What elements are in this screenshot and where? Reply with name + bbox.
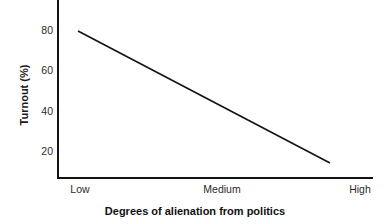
y-axis-line: [57, 0, 59, 179]
y-tick-label-60: 60: [20, 64, 53, 76]
turnout-trend-line: [78, 31, 330, 163]
x-tick-label-high: High: [349, 183, 371, 195]
chart-figure: Turnout (%) 80 60 40 20 Low Medium High …: [0, 0, 390, 224]
x-tick-label-low: Low: [70, 183, 89, 195]
y-tick-label-20: 20: [20, 145, 53, 157]
x-axis-tick-labels: Low Medium High: [0, 183, 390, 197]
y-tick-label-80: 80: [20, 24, 53, 36]
y-tick-label-40: 40: [20, 105, 53, 117]
x-tick-label-medium: Medium: [203, 183, 240, 195]
x-axis-line: [57, 177, 373, 179]
x-axis-title: Degrees of alienation from politics: [0, 205, 390, 217]
